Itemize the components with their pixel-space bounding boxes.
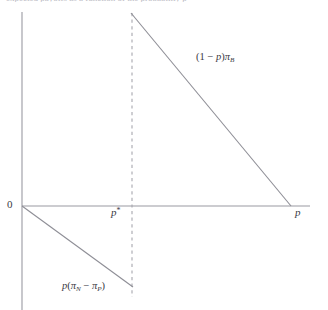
upper-payoff-line xyxy=(131,13,291,206)
plot-canvas xyxy=(0,0,328,310)
lower-minus: − xyxy=(81,280,92,291)
p-star-label: p* xyxy=(111,207,120,218)
lower-payoff-line xyxy=(22,206,133,287)
lower-expression-label: p(πN − πP) xyxy=(62,281,105,292)
upper-expression-label: (1 − p)πB xyxy=(196,52,234,63)
payoff-diagram-figure: expected payoffs as a function of the pr… xyxy=(0,0,328,310)
lower-close-paren: ) xyxy=(102,280,106,291)
p-axis-label: p xyxy=(295,207,301,218)
upper-minus: − xyxy=(205,51,216,62)
p-star-superscript: * xyxy=(117,206,121,215)
upper-pi-subscript: B xyxy=(230,56,234,64)
origin-label: 0 xyxy=(7,199,13,210)
